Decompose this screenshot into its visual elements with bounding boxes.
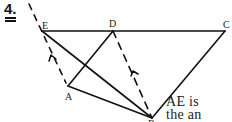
label-D: D [109,19,116,29]
segment-EB [42,31,152,118]
label-E: E [42,21,48,31]
label-C: C [223,20,230,30]
arrow-up-icon [131,71,138,76]
segment-AD [68,31,113,86]
dashed-segment-EA [29,4,66,83]
label-B: B [148,119,155,122]
label-A: A [65,92,72,102]
body-text-line-3: arro [166,121,190,122]
